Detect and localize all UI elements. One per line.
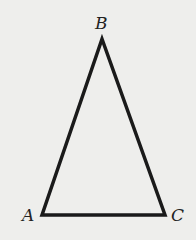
diagram-svg: B A C bbox=[0, 0, 196, 240]
vertex-label-b: B bbox=[94, 13, 108, 33]
triangle-diagram: B A C bbox=[0, 0, 196, 240]
vertex-label-a: A bbox=[20, 205, 34, 225]
vertex-label-c: C bbox=[171, 205, 184, 225]
triangle-abc bbox=[42, 39, 165, 215]
